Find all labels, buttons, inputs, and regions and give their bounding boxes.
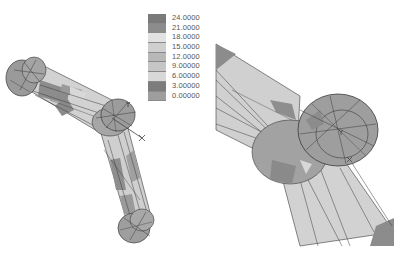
model-canvas — [0, 0, 403, 255]
contour-figure: 24.0000 21.0000 18.0000 15.0000 12.0000 … — [0, 0, 403, 255]
legend-swatch — [148, 62, 166, 72]
legend-label: 24.0000 — [172, 13, 200, 22]
legend-label: 9.00000 — [172, 61, 200, 70]
legend-label: 21.0000 — [172, 23, 200, 32]
legend-label: 3.00000 — [172, 81, 200, 90]
legend-label: 0.00000 — [172, 91, 200, 100]
legend-swatch — [148, 72, 166, 82]
legend-label: 6.00000 — [172, 71, 200, 80]
legend-swatch — [148, 24, 166, 34]
right-zoom-view — [216, 44, 394, 246]
legend-swatch — [148, 43, 166, 53]
legend-label: 18.0000 — [172, 32, 200, 41]
legend-label: 15.0000 — [172, 42, 200, 51]
legend-swatch — [148, 92, 166, 102]
left-model-view — [6, 57, 154, 243]
legend-swatch — [148, 14, 166, 24]
legend-swatch — [148, 53, 166, 63]
legend-swatch — [148, 33, 166, 43]
legend-label: 12.0000 — [172, 52, 200, 61]
legend-swatch — [148, 82, 166, 92]
